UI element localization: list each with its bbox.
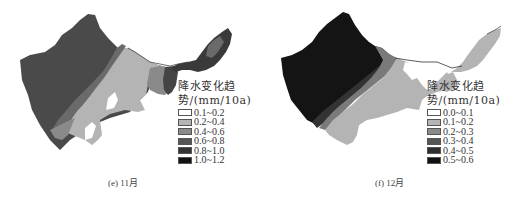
legend-swatch xyxy=(427,119,441,126)
legend-title-line2: 势/(mm/10a) xyxy=(178,94,251,108)
legend-swatch xyxy=(427,157,441,164)
legend-item: 1.0~1.2 xyxy=(178,156,251,166)
legend-swatch xyxy=(178,109,192,116)
legend-swatch xyxy=(427,147,441,154)
caption-november: (e) 11月 xyxy=(108,176,138,189)
legend-swatch xyxy=(178,128,192,135)
legend-title-line2: 势/(mm/10a) xyxy=(427,94,500,108)
legend-swatch xyxy=(178,147,192,154)
legend-title-line1: 降水变化趋 xyxy=(178,80,251,94)
legend-swatch xyxy=(178,157,192,164)
map-panel-december: 降水变化趋 势/(mm/10a) 0.0~0.1 0.1~0.2 0.2~0.3… xyxy=(257,0,514,197)
legend-november: 降水变化趋 势/(mm/10a) 0.1~0.2 0.2~0.4 0.4~0.6… xyxy=(178,80,251,165)
legend-label: 0.5~0.6 xyxy=(443,155,473,166)
legend-swatch xyxy=(427,138,441,145)
caption-december: (f) 12月 xyxy=(375,176,404,189)
legend-title-line1: 降水变化趋 xyxy=(427,80,500,94)
legend-label: 1.0~1.2 xyxy=(194,155,224,166)
legend-swatch xyxy=(427,109,441,116)
legend-swatch xyxy=(427,128,441,135)
legend-december: 降水变化趋 势/(mm/10a) 0.0~0.1 0.1~0.2 0.2~0.3… xyxy=(427,80,500,165)
legend-item: 0.5~0.6 xyxy=(427,156,500,166)
map-panel-november: 降水变化趋 势/(mm/10a) 0.1~0.2 0.2~0.4 0.4~0.6… xyxy=(0,0,257,197)
legend-swatch xyxy=(178,138,192,145)
legend-swatch xyxy=(178,119,192,126)
